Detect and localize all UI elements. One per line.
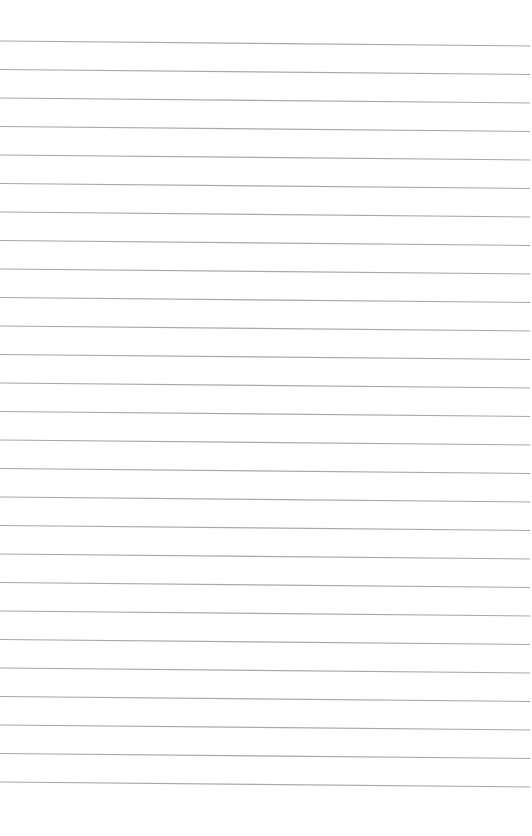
ruled-line [0,70,530,75]
ruled-line [0,412,530,417]
ruled-lines [0,0,532,836]
ruled-line [0,583,530,588]
lined-paper-page [0,0,532,836]
ruled-line [0,497,530,502]
ruled-line [0,326,530,331]
ruled-line [0,98,530,103]
ruled-line [0,241,530,246]
ruled-line [0,782,530,787]
ruled-line [0,697,530,702]
ruled-line [0,611,530,616]
ruled-line [0,668,530,673]
ruled-line [0,725,530,730]
ruled-line [0,526,530,531]
ruled-line [0,269,530,274]
ruled-line [0,754,530,759]
ruled-line [0,127,530,132]
ruled-line [0,184,530,189]
ruled-line [0,383,530,388]
ruled-line [0,640,530,645]
ruled-line [0,469,530,474]
ruled-line [0,155,530,160]
ruled-line [0,554,530,559]
ruled-line [0,298,530,303]
ruled-line [0,41,530,46]
ruled-line [0,212,530,217]
ruled-line [0,355,530,360]
ruled-line [0,440,530,445]
